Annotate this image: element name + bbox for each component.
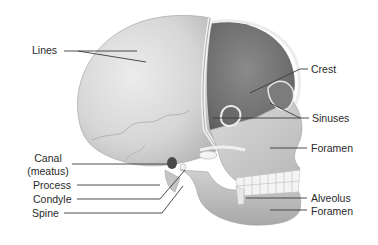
skull-diagram: Lines Canal (meatus) Process Condyle Spi…: [0, 0, 378, 245]
leader-spine: [64, 186, 183, 213]
label-alveolus: Alveolus: [311, 192, 351, 204]
label-condyle: Condyle: [33, 193, 72, 205]
label-process: Process: [33, 179, 71, 191]
label-canal-meatus: (meatus): [23, 165, 73, 177]
label-crest: Crest: [311, 63, 336, 75]
label-foramen-lower: Foramen: [311, 205, 353, 217]
label-foramen-upper: Foramen: [311, 142, 353, 154]
cranial-vault: [78, 15, 219, 165]
label-canal: Canal: [25, 152, 71, 164]
label-lines: Lines: [32, 44, 57, 56]
label-spine: Spine: [32, 207, 59, 219]
label-sinuses: Sinuses: [312, 112, 349, 124]
